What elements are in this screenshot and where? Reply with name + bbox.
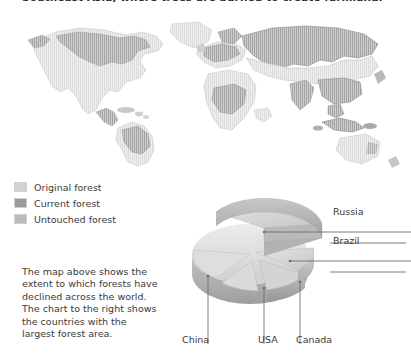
legend-label-current: Current forest: [34, 198, 100, 209]
legend-item-current: Current forest: [14, 196, 164, 210]
legend-swatch-original: [14, 182, 27, 192]
headline-text: Southeast Asia, where trees are burned t…: [22, 0, 397, 2]
map-legend: Original forest Current forest Untouched…: [14, 180, 164, 228]
legend-label-original: Original forest: [34, 182, 102, 193]
pie-label-brazil: Brazil: [333, 235, 360, 246]
infographic-root: Southeast Asia, where trees are burned t…: [0, 0, 411, 364]
pie-label-russia: Russia: [333, 206, 364, 217]
pie-label-canada: Canada: [296, 334, 332, 345]
legend-swatch-untouched: [14, 214, 27, 224]
map-caption-text: The map above shows the extent to which …: [22, 266, 162, 340]
world-forest-map: [22, 18, 402, 168]
legend-swatch-current: [14, 198, 27, 208]
legend-item-original: Original forest: [14, 180, 164, 194]
legend-label-untouched: Untouched forest: [34, 214, 116, 225]
pie-label-usa: USA: [258, 334, 278, 345]
legend-item-untouched: Untouched forest: [14, 212, 164, 226]
pie-label-china: China: [182, 334, 209, 345]
